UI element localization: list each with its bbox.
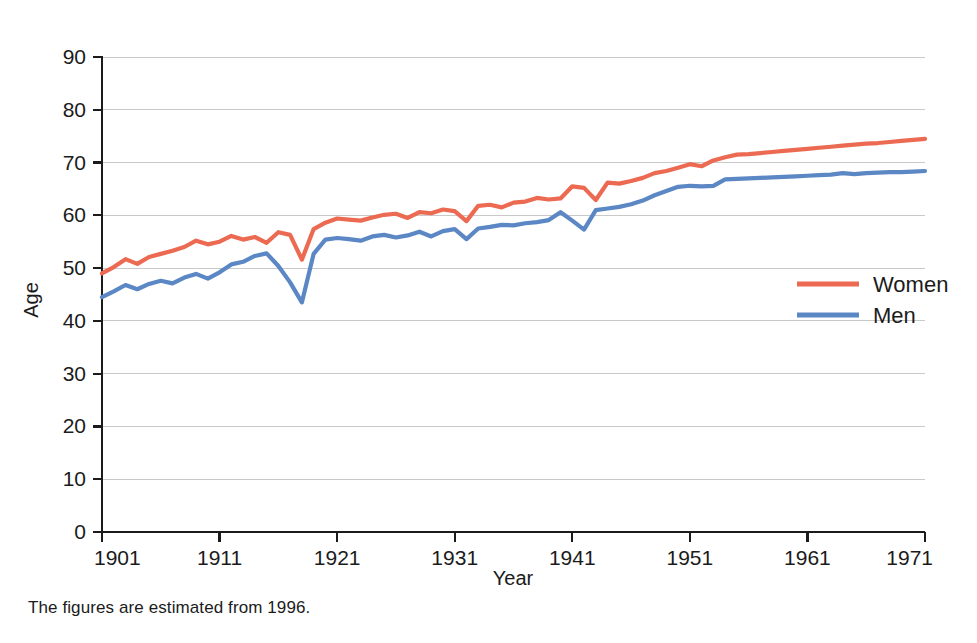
line-chart: 0102030405060708090 19011911192119311941… bbox=[0, 0, 977, 643]
y-tick-label-10: 10 bbox=[63, 467, 86, 490]
x-tick-label-1971: 1971 bbox=[886, 546, 933, 569]
y-tick-label-90: 90 bbox=[63, 45, 86, 68]
chart-legend: WomenMen bbox=[797, 272, 948, 328]
x-tick-label-1901: 1901 bbox=[94, 546, 141, 569]
data-series-group bbox=[102, 139, 925, 303]
x-axis-ticks: 19011911192119311941195119611971 bbox=[94, 532, 933, 569]
y-tick-label-70: 70 bbox=[63, 151, 86, 174]
y-tick-label-80: 80 bbox=[63, 98, 86, 121]
x-tick-label-1961: 1961 bbox=[784, 546, 831, 569]
axes-group bbox=[102, 56, 925, 532]
y-tick-label-30: 30 bbox=[63, 362, 86, 385]
y-tick-label-50: 50 bbox=[63, 256, 86, 279]
figure-container: 0102030405060708090 19011911192119311941… bbox=[0, 0, 977, 643]
y-axis-title: Age bbox=[20, 282, 42, 318]
x-axis-title: Year bbox=[493, 567, 534, 589]
x-tick-label-1911: 1911 bbox=[197, 546, 242, 569]
legend-label-women: Women bbox=[873, 272, 948, 297]
y-tick-label-60: 60 bbox=[63, 203, 86, 226]
y-tick-label-0: 0 bbox=[74, 520, 86, 543]
x-tick-label-1951: 1951 bbox=[666, 546, 713, 569]
y-tick-label-20: 20 bbox=[63, 414, 86, 437]
x-tick-label-1921: 1921 bbox=[314, 546, 361, 569]
figure-caption: The figures are estimated from 1996. bbox=[28, 598, 310, 618]
y-tick-label-40: 40 bbox=[63, 309, 86, 332]
y-axis-ticks: 0102030405060708090 bbox=[63, 45, 102, 543]
series-line-women bbox=[102, 139, 925, 274]
legend-label-men: Men bbox=[873, 303, 916, 328]
x-tick-label-1931: 1931 bbox=[431, 546, 478, 569]
x-tick-label-1941: 1941 bbox=[549, 546, 596, 569]
